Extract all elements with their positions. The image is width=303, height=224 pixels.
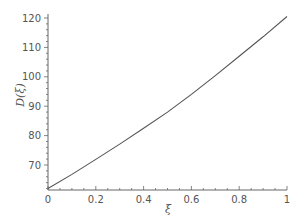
y-tick-label: 70: [28, 160, 41, 171]
y-tick-label: 100: [22, 71, 41, 82]
x-tick-label: 1: [284, 194, 290, 205]
y-axis-label: D(ξ): [14, 83, 27, 107]
y-tick-label: 120: [22, 13, 41, 24]
x-tick-label: 0.6: [183, 194, 199, 205]
line-chart: 00.20.40.60.81 708090100110120 ξ D(ξ): [0, 0, 303, 224]
x-tick-label: 0.8: [231, 194, 247, 205]
y-tick-label: 90: [28, 101, 41, 112]
series-line: [48, 17, 287, 189]
x-tick-label: 0.2: [88, 194, 104, 205]
y-tick-label: 110: [22, 42, 41, 53]
data-series: [48, 17, 287, 189]
x-tick-label: 0: [45, 194, 51, 205]
y-tick-label: 80: [28, 130, 41, 141]
x-tick-label: 0.4: [136, 194, 152, 205]
x-axis-label: ξ: [165, 203, 172, 216]
